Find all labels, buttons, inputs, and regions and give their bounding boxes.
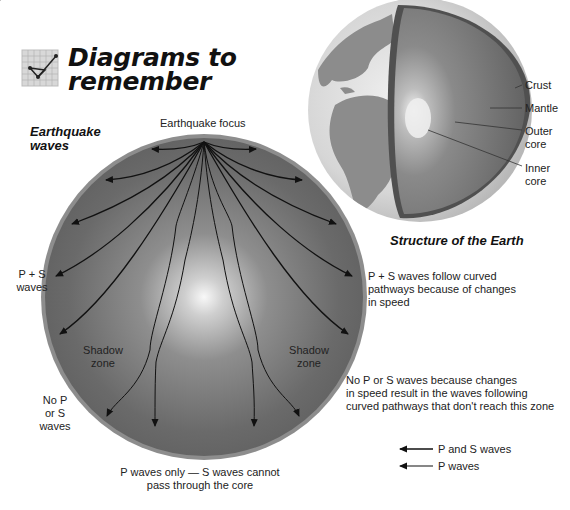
label-line: waves	[12, 281, 52, 294]
earthquake-waves-circle	[41, 134, 367, 460]
caption-line: waves	[30, 139, 101, 153]
note-line: in speed	[368, 296, 516, 309]
outer-core-label: Outer core	[525, 125, 553, 151]
caption-line: Earthquake	[30, 125, 101, 139]
label-line: Outer	[525, 125, 553, 138]
note-line: in speed result in the waves following	[346, 387, 554, 400]
note-line: P waves only — S waves cannot	[110, 466, 290, 479]
shadow-zone-note: No P or S waves because changes in speed…	[346, 374, 554, 413]
legend-item-p-and-s-waves: P and S waves	[438, 443, 511, 456]
label-line: or S	[35, 407, 75, 420]
p-waves-only-note: P waves only — S waves cannot pass throu…	[110, 466, 290, 492]
graph-check-icon	[22, 50, 58, 86]
label-line: Inner	[525, 162, 550, 175]
note-line: pass through the core	[110, 479, 290, 492]
label-line: zone	[78, 357, 128, 370]
title-line-2: remember	[68, 70, 237, 94]
label-line: core	[525, 175, 550, 188]
note-line: curved pathways that don't reach this zo…	[346, 400, 554, 413]
page-title: Diagrams to remember	[68, 46, 237, 94]
ps-waves-label: P + S waves	[12, 268, 52, 294]
earthquake-waves-caption: Earthquake waves	[30, 125, 101, 153]
label-line: core	[525, 138, 553, 151]
inner-core-label: Inner core	[525, 162, 550, 188]
label-line: No P	[35, 394, 75, 407]
label-line: P + S	[12, 268, 52, 281]
curved-pathways-note: P + S waves follow curved pathways becau…	[368, 270, 516, 309]
shadow-zone-left-label: Shadow zone	[78, 344, 128, 370]
label-line: waves	[35, 420, 75, 433]
mantle-label: Mantle	[525, 102, 558, 115]
crust-label: Crust	[525, 79, 551, 92]
note-line: P + S waves follow curved	[368, 270, 516, 283]
structure-of-earth-caption: Structure of the Earth	[390, 234, 524, 248]
earthquake-focus-label: Earthquake focus	[160, 117, 246, 130]
legend-item-p-waves: P waves	[438, 460, 479, 473]
note-line: No P or S waves because changes	[346, 374, 554, 387]
legend-arrows	[400, 449, 433, 466]
earth-structure-globe	[308, 0, 532, 222]
label-line: Shadow	[284, 344, 334, 357]
label-line: Shadow	[78, 344, 128, 357]
shadow-zone-right-label: Shadow zone	[284, 344, 334, 370]
note-line: pathways because of changes	[368, 283, 516, 296]
no-ps-waves-label: No P or S waves	[35, 394, 75, 433]
label-line: zone	[284, 357, 334, 370]
